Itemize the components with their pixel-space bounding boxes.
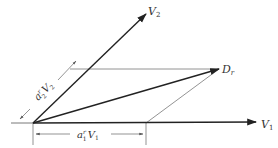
label-v2: V2	[148, 5, 160, 19]
parallel-right-line	[146, 69, 219, 123]
parallelogram-construction	[70, 69, 219, 123]
label-a1v1: ar1V1	[77, 128, 99, 142]
label-dr: Dr	[221, 63, 235, 77]
label-a2v2: ar2V2	[31, 79, 56, 104]
label-v1: V1	[261, 118, 273, 132]
vector-diagram: V1 V2 Dr ar1V1 ar2V2	[0, 0, 278, 148]
vector-v1	[33, 122, 256, 123]
